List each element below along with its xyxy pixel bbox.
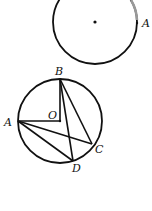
top-circle — [53, 0, 137, 64]
top-label-a: A — [141, 17, 150, 30]
label-a: A — [3, 116, 12, 129]
point-o — [59, 120, 61, 122]
label-d: D — [71, 162, 81, 175]
label-b: B — [54, 65, 63, 78]
geometry-figure: A B O A C D — [0, 0, 152, 211]
label-c: C — [95, 143, 104, 156]
bottom-figure: B O A C D — [3, 65, 104, 175]
top-figure: A — [53, 0, 150, 64]
top-center-dot — [93, 20, 96, 23]
top-point-a — [136, 22, 138, 24]
label-o: O — [48, 109, 57, 122]
top-arc-highlight — [131, 0, 137, 20]
segment-ac — [18, 121, 92, 144]
segment-ad — [18, 121, 73, 161]
